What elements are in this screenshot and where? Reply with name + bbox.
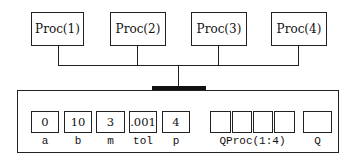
- array-cell-4: [274, 111, 295, 133]
- variable-value: 4: [172, 115, 179, 129]
- processor-label: Proc(3): [197, 22, 242, 36]
- connector-stem-1: [58, 46, 59, 66]
- variable-value: 0: [41, 115, 48, 129]
- connector-stem-4: [298, 46, 299, 66]
- array-cell-1: [210, 111, 231, 133]
- variable-cell-p: 4: [162, 111, 190, 133]
- connector-stem-3: [218, 46, 219, 66]
- bus-stem: [178, 65, 179, 87]
- array-name: QProc(1:4): [210, 135, 295, 147]
- array-cell-3: [253, 111, 273, 133]
- variable-name-a: a: [31, 135, 59, 147]
- variable-cell-b: 10: [64, 111, 92, 133]
- variable-value: 3: [107, 115, 114, 129]
- processor-box-3: Proc(3): [191, 12, 247, 46]
- variable-value: .001: [130, 115, 156, 129]
- scalar-cell-q: [303, 111, 332, 133]
- variable-value: 10: [71, 115, 86, 129]
- variable-cell-a: 0: [31, 111, 59, 133]
- processor-box-2: Proc(2): [110, 12, 166, 46]
- array-cell-2: [232, 111, 252, 133]
- processor-label: Proc(4): [277, 22, 322, 36]
- processor-box-4: Proc(4): [271, 12, 327, 46]
- connector-stem-2: [137, 46, 138, 66]
- variable-cell-tol: .001: [129, 111, 157, 133]
- variable-cell-m: 3: [96, 111, 125, 133]
- variable-name-tol: tol: [126, 135, 160, 147]
- processor-label: Proc(2): [116, 22, 161, 36]
- variable-name-m: m: [96, 135, 125, 147]
- variable-name-b: b: [64, 135, 92, 147]
- processor-label: Proc(1): [35, 22, 80, 36]
- variable-name-p: p: [162, 135, 190, 147]
- scalar-name-q: Q: [303, 135, 332, 147]
- processor-box-1: Proc(1): [31, 12, 84, 46]
